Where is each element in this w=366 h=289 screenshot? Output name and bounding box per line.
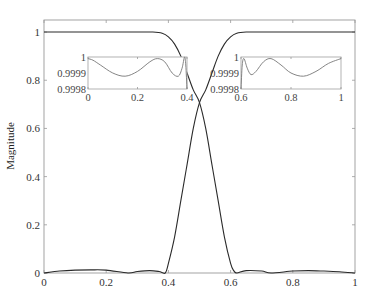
inset-y-tick-label: 1 (234, 52, 239, 63)
y-tick-label: 0.6 (26, 122, 40, 134)
x-tick-label: 1 (352, 276, 358, 288)
inset-y-tick-label: 0.9998 (57, 84, 86, 95)
x-tick-label: 0.2 (99, 276, 113, 288)
inset-y-tick-label: 1 (81, 52, 86, 63)
inset-x-tick-label: 0 (85, 92, 90, 103)
y-tick-label: 0.8 (26, 74, 40, 86)
x-tick-label: 0 (41, 276, 47, 288)
inset-x-tick-label: 0.4 (180, 92, 194, 103)
magnitude-chart: 00.20.40.60.8100.20.40.60.81 Magnitude 0… (0, 0, 366, 289)
inset-x-tick-label: 0.8 (284, 92, 297, 103)
inset-y-tick-label: 0.9998 (210, 84, 239, 95)
y-tick-label: 0 (35, 267, 41, 279)
y-tick-label: 0.4 (26, 171, 40, 183)
x-tick-label: 0.6 (224, 276, 238, 288)
inset-y-tick-label: 0.9999 (210, 68, 239, 79)
x-tick-label: 0.4 (162, 276, 176, 288)
inset-right: 0.60.8110.99990.9998 (210, 52, 344, 103)
y-tick-label: 1 (35, 26, 41, 38)
x-tick-label: 0.8 (286, 276, 300, 288)
inset-left: 00.20.410.99990.9998 (57, 52, 194, 103)
y-axis-title: Magnitude (4, 122, 16, 170)
inset-x-tick-label: 0.2 (131, 92, 144, 103)
inset-y-tick-label: 0.9999 (57, 68, 86, 79)
y-tick-label: 0.2 (26, 219, 40, 231)
inset-x-tick-label: 1 (338, 92, 343, 103)
